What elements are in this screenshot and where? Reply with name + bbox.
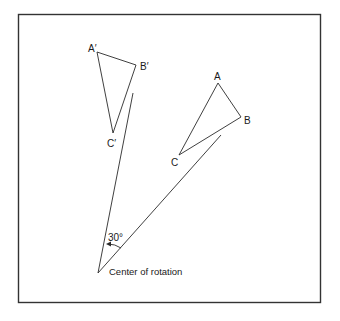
angle-label: 30° [108, 232, 123, 243]
frame [19, 15, 321, 303]
label-c: C [171, 157, 178, 168]
label-b-prime: B′ [140, 61, 149, 72]
center-of-rotation-label: Center of rotation [109, 266, 182, 277]
label-b: B [244, 115, 251, 126]
label-c-prime: C′ [107, 138, 116, 149]
label-a: A [214, 71, 221, 82]
rotation-diagram: A′ B′ C′ A B C 30° Center of rotation [0, 0, 340, 321]
label-a-prime: A′ [88, 43, 97, 54]
